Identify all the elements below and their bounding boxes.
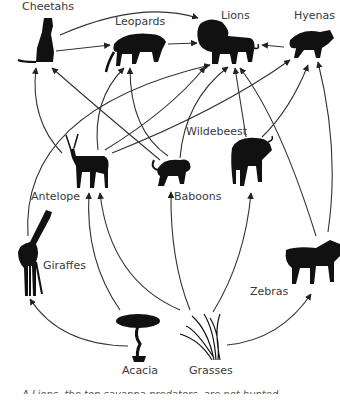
lion-silhouette [197, 19, 258, 64]
giraffe-silhouette [18, 210, 52, 296]
label-grasses: Grasses [189, 364, 233, 377]
hyena-silhouette [290, 30, 334, 58]
label-leopards: Leopards [115, 15, 165, 28]
label-hyenas: Hyenas [294, 9, 335, 22]
zebra-silhouette [286, 240, 340, 284]
label-baboons: Baboons [174, 190, 221, 203]
food-web-diagram: Cheetahs Leopards Lions Hyenas Antelope … [0, 0, 340, 401]
label-zebras: Zebras [250, 285, 288, 298]
label-acacia: Acacia [122, 364, 158, 377]
label-giraffes: Giraffes [43, 259, 86, 272]
label-lions: Lions [221, 9, 250, 22]
grasses-silhouette [180, 314, 220, 360]
wildebeest-silhouette [231, 136, 272, 186]
cheetah-silhouette [18, 18, 54, 62]
label-antelope: Antelope [31, 190, 80, 203]
label-wildebeest: Wildebeest [186, 125, 247, 138]
leopard-silhouette [106, 34, 166, 72]
acacia-silhouette [116, 314, 160, 362]
baboon-silhouette [153, 160, 191, 187]
label-cheetahs: Cheetahs [22, 0, 74, 13]
antelope-silhouette [66, 134, 109, 188]
